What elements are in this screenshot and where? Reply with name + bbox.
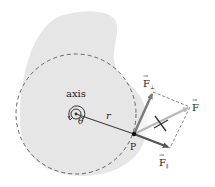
point-p-dot	[132, 132, 136, 136]
axis-label: axis	[66, 88, 86, 99]
angle-label: θ	[78, 116, 84, 126]
point-p-label: P	[130, 142, 136, 152]
torque-diagram: axis θ r P → F ⊥ → F → F ∥	[0, 0, 215, 187]
svg-text:⊥: ⊥	[150, 84, 155, 90]
svg-text:∥: ∥	[166, 163, 168, 169]
svg-text:F: F	[143, 78, 150, 89]
svg-text:F: F	[192, 102, 199, 113]
svg-text:F: F	[159, 157, 166, 168]
force-par-label: → F ∥	[159, 151, 168, 169]
force-perp-label: → F ⊥	[143, 72, 155, 90]
force-total-label: → F	[192, 96, 199, 113]
